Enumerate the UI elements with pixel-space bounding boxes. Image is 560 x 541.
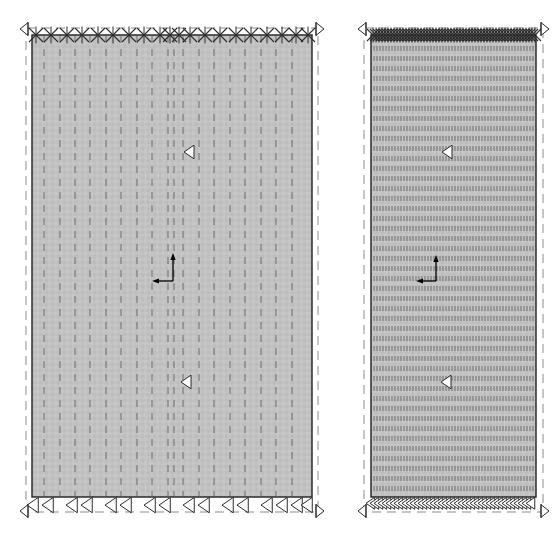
diagram-canvas: [0, 0, 560, 541]
panel-body-fill: [371, 35, 536, 497]
refined-mesh-panel: [358, 22, 549, 518]
panel-body-fill: [32, 35, 312, 497]
coarse-mesh-panel: [20, 22, 324, 518]
diagram-svg: [0, 0, 560, 541]
bottom-load-group: [366, 497, 535, 509]
panels-root: [20, 22, 549, 518]
